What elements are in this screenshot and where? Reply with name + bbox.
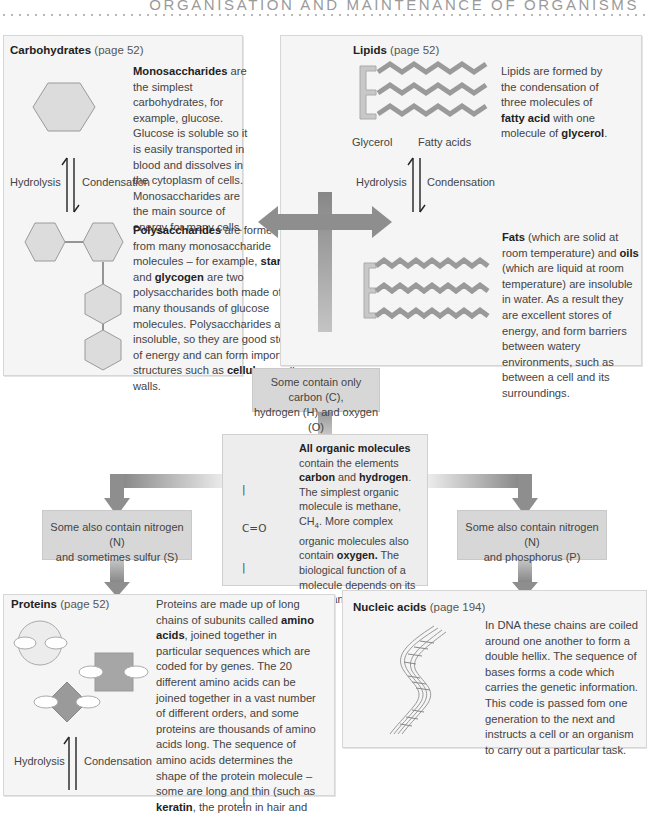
np-line-1: Some also contain nitrogen (N) xyxy=(458,520,606,550)
chon-line-2: hydrogen (H) and oxygen (O) xyxy=(253,405,379,435)
chon-info-box: Some contain only carbon (C), hydrogen (… xyxy=(252,368,380,412)
organic-molecules-text: All organic molecules contain the elemen… xyxy=(299,441,425,607)
nucleic-acids-desc: In DNA these chains are coiled around on… xyxy=(485,619,638,756)
keratin-term: keratin xyxy=(156,801,193,813)
proteins-title-term: Proteins xyxy=(11,598,57,610)
proteins-page-ref: (page 52) xyxy=(57,598,109,610)
hydrogen-term: hydrogen xyxy=(359,471,408,483)
nitrogen-sulfur-box: Some also contain nitrogen (N) and somet… xyxy=(42,510,192,560)
nucleic-acids-title: Nucleic acids (page 194) xyxy=(353,601,485,613)
ns-line-1: Some also contain nitrogen (N) xyxy=(43,520,191,550)
center-text-1: contain the elements xyxy=(299,457,399,469)
center-text-2: and xyxy=(335,471,359,483)
proteins-title: Proteins (page 52) xyxy=(11,598,109,610)
proteins-text-3: , the protein in hair and xyxy=(193,801,307,813)
nitrogen-phosphorus-box: Some also contain nitrogen (N) and phosp… xyxy=(457,510,607,560)
formula-line: | xyxy=(232,561,271,574)
formula-line: | xyxy=(232,483,271,496)
protein-hydrolysis-label: Hydrolysis xyxy=(14,755,65,767)
protein-condensation-label: Condensation xyxy=(84,755,152,767)
proteins-text: Proteins are made up of long chains of s… xyxy=(156,597,316,815)
nucleic-acids-title-term: Nucleic acids xyxy=(353,601,427,613)
ns-line-2: and sometimes sulfur (S) xyxy=(43,550,191,565)
proteins-text-1: Proteins are made up of long chains of s… xyxy=(156,598,300,626)
np-line-2: and phosphorus (P) xyxy=(458,550,606,565)
chon-line-1: Some contain only carbon (C), xyxy=(253,375,379,405)
reversible-arrows-icon xyxy=(62,735,84,790)
carbon-term: carbon xyxy=(299,471,335,483)
dna-double-helix-icon xyxy=(390,626,445,736)
proteins-text-2: , joined together in particular sequence… xyxy=(156,629,316,797)
nucleic-acids-page-ref: (page 194) xyxy=(427,601,486,613)
oxygen-term: oxygen. xyxy=(337,549,378,561)
amino-acids-icon xyxy=(14,620,149,730)
nucleic-acids-text: In DNA these chains are coiled around on… xyxy=(485,618,640,758)
all-organic-molecules-term: All organic molecules xyxy=(299,442,411,454)
formula-line: C=O xyxy=(232,522,271,535)
